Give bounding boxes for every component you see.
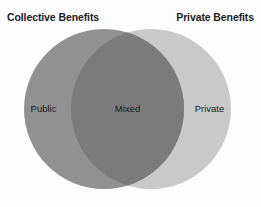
region-label-private: Private [195, 104, 225, 114]
header-label-collective-benefits: Collective Benefits [7, 12, 99, 23]
region-label-mixed: Mixed [115, 104, 140, 114]
region-label-public: Public [31, 104, 57, 114]
venn-diagram-canvas: Collective Benefits Private Benefits Pub… [0, 0, 261, 207]
header-label-private-benefits: Private Benefits [176, 12, 254, 23]
